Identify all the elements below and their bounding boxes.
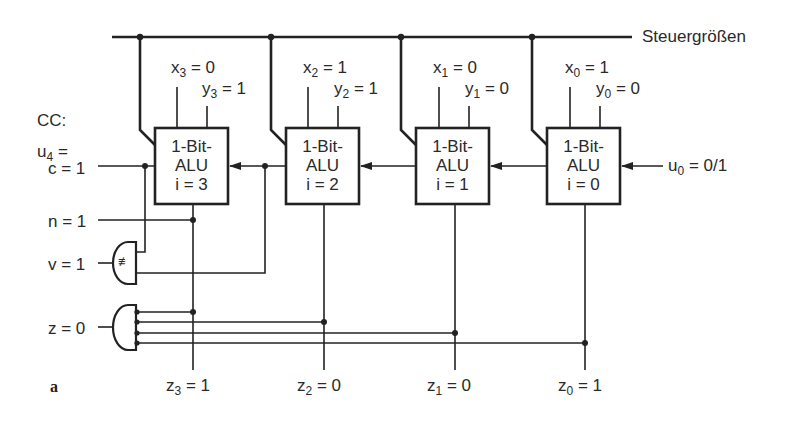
alu-1-line3: i = 1 xyxy=(416,175,489,194)
xor-symbol: ≢ xyxy=(118,255,131,268)
alu-3-line2: ALU xyxy=(155,156,228,175)
x0-label: x0 = 1 xyxy=(565,59,609,79)
x2-label: x2 = 1 xyxy=(303,59,347,79)
and-gate-z xyxy=(113,305,136,350)
cc-label: CC: xyxy=(37,112,66,129)
alu-0-line1: 1-Bit- xyxy=(547,137,620,156)
alu-3-text: 1-Bit- ALU i = 3 xyxy=(155,137,228,194)
alu-0-text: 1-Bit- ALU i = 0 xyxy=(547,137,620,194)
circuit-wiring xyxy=(0,0,796,429)
y1-label: y1 = 0 xyxy=(465,80,509,100)
c-flag-label: c = 1 xyxy=(48,160,85,177)
z-flag-label: z = 0 xyxy=(48,320,85,337)
x1-label: x1 = 0 xyxy=(433,59,477,79)
alu-1-line2: ALU xyxy=(416,156,489,175)
control-bus-label: Steuergrößen xyxy=(642,28,746,45)
x3-label: x3 = 0 xyxy=(171,59,215,79)
alu-3-line1: 1-Bit- xyxy=(155,137,228,156)
alu-1-line1: 1-Bit- xyxy=(416,137,489,156)
alu-3-line3: i = 3 xyxy=(155,175,228,194)
alu-2-line2: ALU xyxy=(286,156,359,175)
y3-label: y3 = 1 xyxy=(202,80,246,100)
alu-2-text: 1-Bit- ALU i = 2 xyxy=(286,137,359,194)
v-flag-label: v = 1 xyxy=(48,256,85,273)
z2-label: z2 = 0 xyxy=(297,377,341,397)
alu-1-text: 1-Bit- ALU i = 1 xyxy=(416,137,489,194)
alu-0-line2: ALU xyxy=(547,156,620,175)
alu-0-line3: i = 0 xyxy=(547,175,620,194)
z1-label: z1 = 0 xyxy=(427,377,471,397)
z3-label: z3 = 1 xyxy=(166,377,210,397)
carry-in-label: u0 = 0/1 xyxy=(668,157,727,177)
alu-2-line1: 1-Bit- xyxy=(286,137,359,156)
n-flag-label: n = 1 xyxy=(48,213,86,230)
alu-2-line3: i = 2 xyxy=(286,175,359,194)
z0-label: z0 = 1 xyxy=(558,377,602,397)
y2-label: y2 = 1 xyxy=(334,80,378,100)
figure-label: a xyxy=(50,378,58,396)
y0-label: y0 = 0 xyxy=(596,80,640,100)
